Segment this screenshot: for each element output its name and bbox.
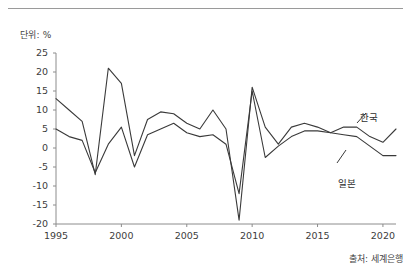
y-tick-label: 15: [22, 85, 48, 96]
y-tick-label: 5: [22, 123, 48, 134]
x-tick-label: 2010: [232, 230, 272, 241]
y-tick-label: 25: [22, 47, 48, 58]
line-chart: 2520151050-5-10-15-20 199520002005201020…: [0, 0, 411, 274]
x-tick-label: 2015: [298, 230, 338, 241]
source-label: 출처: 세계은행: [349, 252, 403, 265]
x-tick-label: 2020: [363, 230, 403, 241]
series-label-일본: 일본: [338, 176, 356, 190]
x-tick-label: 2000: [101, 230, 141, 241]
y-tick-label: 10: [22, 104, 48, 115]
x-tick-label: 1995: [36, 230, 76, 241]
y-tick-label: -10: [22, 180, 48, 191]
chart-series-group: [56, 68, 396, 220]
y-tick-label: -15: [22, 199, 48, 210]
x-tick-label: 2005: [167, 230, 207, 241]
y-tick-label: 20: [22, 66, 48, 77]
chart-axes: [53, 53, 396, 227]
y-tick-label: -5: [22, 161, 48, 172]
y-tick-label: 0: [22, 142, 48, 153]
y-tick-label: -20: [22, 218, 48, 229]
series-label-한국: 한국: [360, 110, 378, 124]
japan-leader-line: [337, 150, 346, 163]
